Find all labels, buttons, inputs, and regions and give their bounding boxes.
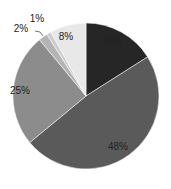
- pie-chart: 16%48%25%2%1%8%: [0, 0, 171, 189]
- pie-slices: [13, 23, 159, 169]
- data-label: 25%: [10, 85, 30, 96]
- leader-line-2pct: [35, 31, 43, 36]
- data-label: 48%: [108, 141, 128, 152]
- data-label: 1%: [30, 13, 45, 24]
- data-label: 8%: [59, 31, 74, 42]
- data-label: 16%: [102, 36, 122, 47]
- data-label: 2%: [14, 23, 29, 34]
